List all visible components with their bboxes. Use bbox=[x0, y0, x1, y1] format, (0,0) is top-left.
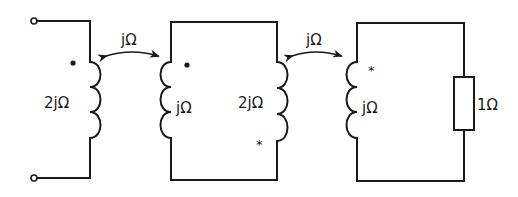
label-L2: jΩ bbox=[175, 99, 192, 117]
label-L3: 2jΩ bbox=[238, 94, 263, 112]
resistor-R1 bbox=[454, 77, 474, 130]
middle-circuit: jΩ * 2jΩ bbox=[161, 22, 288, 180]
mutual-coupling-2: jΩ bbox=[292, 31, 341, 56]
polarity-asterisk-L3: * bbox=[256, 137, 263, 152]
wire-primary-top bbox=[37, 21, 90, 62]
circuit-diagram: 2jΩ jΩ jΩ * 2jΩ jΩ * jΩ 1Ω bbox=[0, 0, 518, 197]
label-L1: 2jΩ bbox=[44, 94, 69, 112]
wire-primary-bottom bbox=[37, 138, 90, 178]
secondary-circuit: * jΩ 1Ω bbox=[347, 23, 499, 181]
label-R1: 1Ω bbox=[477, 96, 498, 114]
inductor-L4 bbox=[347, 62, 358, 138]
mutual-coupling-1: jΩ bbox=[106, 31, 158, 56]
inductor-L1 bbox=[90, 62, 101, 138]
double-arrow-icon bbox=[106, 52, 158, 56]
primary-circuit: 2jΩ bbox=[31, 18, 101, 181]
wire-secondary-bottom bbox=[357, 130, 464, 181]
wire-middle-top bbox=[171, 22, 277, 62]
label-M1: jΩ bbox=[120, 31, 137, 49]
inductor-L3 bbox=[277, 62, 288, 141]
polarity-asterisk-L4: * bbox=[368, 63, 375, 78]
polarity-dot-L1 bbox=[70, 60, 75, 65]
label-L4: jΩ bbox=[361, 99, 378, 117]
double-arrow-icon bbox=[292, 52, 341, 56]
polarity-dot-L2 bbox=[184, 62, 189, 67]
label-M2: jΩ bbox=[305, 31, 322, 49]
inductor-L2 bbox=[161, 62, 172, 138]
